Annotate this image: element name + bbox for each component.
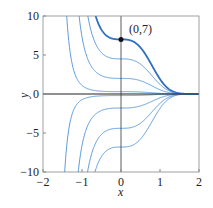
highlight-point xyxy=(119,37,124,42)
point-annotation: (0,7) xyxy=(129,22,152,36)
x-axis-label: x xyxy=(117,185,124,199)
x-tick-label: 1 xyxy=(157,175,163,189)
axis-ticks: −2−1012−10−50510 xyxy=(20,9,202,189)
x-tick-label: 2 xyxy=(196,175,202,189)
y-tick-label: −10 xyxy=(20,165,39,179)
x-tick-label: −1 xyxy=(76,175,89,189)
y-tick-label: 5 xyxy=(33,48,39,62)
y-tick-label: −5 xyxy=(26,126,39,140)
chart: −2−1012−10−50510 (0,7) x y xyxy=(0,0,213,208)
y-axis-label: y xyxy=(17,92,31,99)
y-tick-label: 10 xyxy=(27,9,39,23)
y-tick-label: 0 xyxy=(33,87,39,101)
